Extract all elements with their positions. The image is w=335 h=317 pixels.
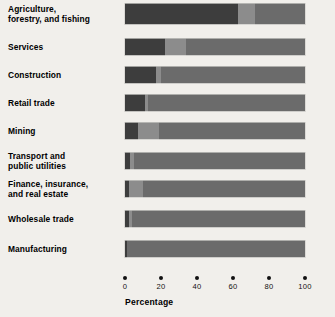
x-axis-tick-label: 60 — [218, 282, 248, 291]
bar-segment-1 — [125, 95, 145, 112]
bar-segment-3 — [186, 39, 305, 56]
tick-dot-icon — [123, 276, 127, 280]
stacked-bar-chart: Agriculture, forestry, and fishing Servi… — [0, 0, 335, 317]
bar-segment-3 — [148, 95, 305, 112]
x-axis-tick-label: 0 — [110, 282, 140, 291]
chart-row-manufacturing: Manufacturing — [0, 235, 335, 263]
chart-row-wholesale-trade: Wholesale trade — [0, 205, 335, 233]
tick-dot-icon — [159, 276, 163, 280]
x-axis-tick: 40 — [182, 276, 212, 291]
bar-retail-trade — [125, 95, 305, 112]
category-label: Construction — [8, 70, 116, 80]
category-label: Services — [8, 42, 116, 52]
bar-segment-1 — [125, 39, 165, 56]
bar-construction — [125, 67, 305, 84]
x-axis-tick: 60 — [218, 276, 248, 291]
bar-wholesale-trade — [125, 211, 305, 228]
bar-segment-2 — [138, 123, 160, 140]
chart-row-services: Services — [0, 33, 335, 61]
x-axis-tick: 80 — [254, 276, 284, 291]
bar-finance-insurance-and-real-estate — [125, 181, 305, 198]
x-axis-tick: 20 — [146, 276, 176, 291]
category-label: Finance, insurance, and real estate — [8, 179, 116, 200]
bar-segment-3 — [255, 4, 305, 25]
category-label: Agriculture, forestry, and fishing — [8, 4, 116, 25]
category-label: Manufacturing — [8, 244, 116, 254]
bar-segment-2 — [165, 39, 187, 56]
category-label: Transport and public utilities — [8, 151, 116, 172]
bar-segment-3 — [127, 241, 305, 258]
bar-segment-1 — [125, 123, 138, 140]
x-axis-title: Percentage — [125, 297, 173, 307]
chart-row-retail-trade: Retail trade — [0, 89, 335, 117]
bar-segment-1 — [125, 67, 156, 84]
x-axis-tick-label: 20 — [146, 282, 176, 291]
chart-row-finance-insurance-and-real-estate: Finance, insurance, and real estate — [0, 175, 335, 203]
x-axis-tick-label: 80 — [254, 282, 284, 291]
x-axis-tick-label: 100 — [290, 282, 320, 291]
bar-segment-2 — [129, 181, 143, 198]
bar-mining — [125, 123, 305, 140]
bar-transport-and-public-utilities — [125, 153, 305, 170]
bar-segment-3 — [159, 123, 305, 140]
chart-row-transport-and-public-utilities: Transport and public utilities — [0, 147, 335, 175]
chart-row-mining: Mining — [0, 117, 335, 145]
tick-dot-icon — [303, 276, 307, 280]
tick-dot-icon — [195, 276, 199, 280]
category-label: Retail trade — [8, 98, 116, 108]
tick-dot-icon — [267, 276, 271, 280]
x-axis-tick-label: 40 — [182, 282, 212, 291]
x-axis-tick: 0 — [110, 276, 140, 291]
bar-agriculture-forestry-and-fishing — [125, 4, 305, 25]
bar-manufacturing — [125, 241, 305, 258]
category-label: Mining — [8, 126, 116, 136]
category-label: Wholesale trade — [8, 214, 116, 224]
bar-segment-3 — [143, 181, 305, 198]
bar-segment-2 — [238, 4, 254, 25]
bar-segment-3 — [132, 211, 305, 228]
bar-segment-3 — [134, 153, 305, 170]
bar-segment-3 — [161, 67, 305, 84]
bar-services — [125, 39, 305, 56]
bar-segment-1 — [125, 4, 238, 25]
tick-dot-icon — [231, 276, 235, 280]
chart-row-agriculture-forestry-and-fishing: Agriculture, forestry, and fishing — [0, 0, 335, 28]
chart-row-construction: Construction — [0, 61, 335, 89]
x-axis-tick: 100 — [290, 276, 320, 291]
